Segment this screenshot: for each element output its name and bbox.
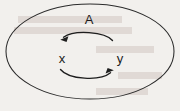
element-label-y: y: [117, 51, 124, 66]
element-label-x: x: [59, 51, 66, 66]
arrow-x-to-y: [61, 68, 114, 78]
figure-container: A x y: [0, 0, 180, 111]
set-diagram: A x y: [0, 0, 180, 111]
page-bleed-artifacts: [14, 16, 162, 95]
set-label-A: A: [85, 12, 94, 27]
arrow-x-to-y-curve: [61, 70, 111, 79]
